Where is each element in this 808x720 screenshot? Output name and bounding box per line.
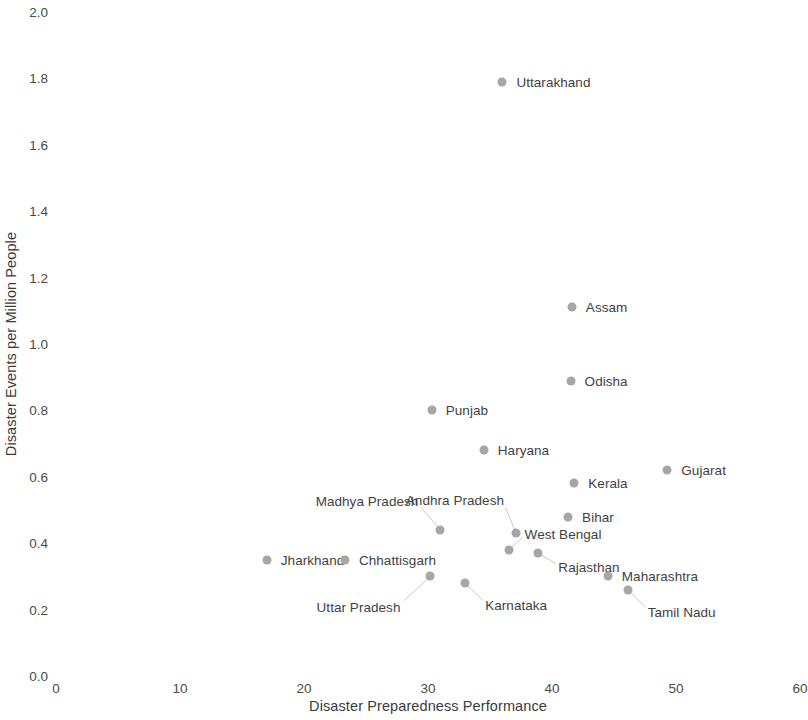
- data-point-label: Chhattisgarh: [359, 552, 436, 567]
- data-point-label: Uttar Pradesh: [317, 600, 401, 615]
- data-point[interactable]: [498, 77, 507, 86]
- data-point[interactable]: [534, 549, 543, 558]
- data-point[interactable]: [567, 303, 576, 312]
- data-point-label: Andhra Pradesh: [406, 493, 504, 508]
- leader-line: [404, 576, 430, 600]
- x-tick-label: 10: [172, 681, 187, 696]
- data-point-label: Jharkhand: [281, 552, 345, 567]
- data-point[interactable]: [340, 555, 349, 564]
- data-point[interactable]: [512, 529, 521, 538]
- data-point-label: Kerala: [588, 476, 627, 491]
- data-point[interactable]: [504, 545, 513, 554]
- data-point-label: Assam: [586, 300, 628, 315]
- data-point[interactable]: [479, 446, 488, 455]
- data-point[interactable]: [564, 512, 573, 521]
- x-tick-label: 50: [668, 681, 683, 696]
- x-tick-label: 60: [792, 681, 807, 696]
- data-point-label: Bihar: [582, 509, 614, 524]
- data-point-label: Maharashtra: [622, 569, 698, 584]
- scatter-chart: Disaster Events per Million People 0.00.…: [0, 0, 808, 720]
- data-point-label: Tamil Nadu: [648, 604, 716, 619]
- x-tick-label: 40: [544, 681, 559, 696]
- data-point[interactable]: [603, 572, 612, 581]
- x-axis-title: Disaster Preparedness Performance: [56, 698, 800, 714]
- data-point-label: Haryana: [498, 443, 549, 458]
- data-point-label: Gujarat: [681, 463, 726, 478]
- x-tick-label: 0: [52, 681, 60, 696]
- data-point[interactable]: [262, 555, 271, 564]
- plot-area: UttarakhandAssamOdishaPunjabHaryanaGujar…: [0, 0, 808, 720]
- data-point[interactable]: [461, 579, 470, 588]
- data-point[interactable]: [663, 466, 672, 475]
- data-point[interactable]: [570, 479, 579, 488]
- data-point-label: Punjab: [446, 403, 488, 418]
- data-point[interactable]: [566, 376, 575, 385]
- data-point-label: Madhya Pradesh: [316, 493, 419, 508]
- data-point-label: West Bengal: [525, 526, 602, 541]
- x-tick-label: 30: [420, 681, 435, 696]
- data-point[interactable]: [426, 572, 435, 581]
- data-point[interactable]: [436, 525, 445, 534]
- data-point-label: Uttarakhand: [516, 74, 590, 89]
- data-point-label: Odisha: [585, 373, 628, 388]
- data-point-label: Karnataka: [485, 598, 547, 613]
- data-point[interactable]: [427, 406, 436, 415]
- data-point[interactable]: [623, 585, 632, 594]
- x-tick-label: 20: [296, 681, 311, 696]
